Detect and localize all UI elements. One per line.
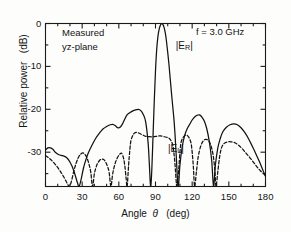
curve-label-er: |ER|: [176, 41, 193, 51]
y-axis-title-word: Relative power: [18, 62, 29, 128]
xtick-label-120: 120: [184, 192, 200, 202]
xtick-label-30: 30: [77, 192, 88, 202]
ytick-label-minus30: -30: [27, 147, 41, 157]
curve-label-el-close: |: [181, 143, 184, 154]
y-axis-title: Relative power (dB): [13, 21, 31, 141]
x-axis-title: Angle θ (deg): [121, 209, 189, 219]
annotation-plane: yz-plane: [62, 42, 98, 52]
x-axis-title-word: Angle: [121, 208, 147, 219]
theta-symbol: θ: [153, 208, 158, 219]
curve-label-er-close: |: [190, 40, 193, 51]
xtick-label-150: 150: [221, 192, 237, 202]
ytick-label-0: 0: [36, 19, 41, 29]
y-axis-title-text: Relative power (dB): [18, 34, 29, 127]
curve-label-er-open: |E: [176, 40, 185, 51]
annotation-measured: Measured: [62, 28, 104, 38]
xtick-label-60: 60: [113, 192, 124, 202]
xtick-label-90: 90: [150, 192, 161, 202]
data-curve-el: [46, 132, 266, 187]
curve-label-el: |EL|: [168, 144, 184, 154]
y-axis-title-unit: (dB): [18, 34, 29, 53]
curve-label-el-open: |E: [168, 143, 177, 154]
antenna-pattern-figure: 0 -10 -20 -30 0306090120150180 Relative …: [0, 0, 291, 232]
x-axis-title-unit: (deg): [166, 208, 189, 219]
xtick-label-180: 180: [257, 192, 273, 202]
xtick-label-0: 0: [43, 192, 48, 202]
annotation-frequency: f = 3.0 GHz: [196, 27, 244, 37]
